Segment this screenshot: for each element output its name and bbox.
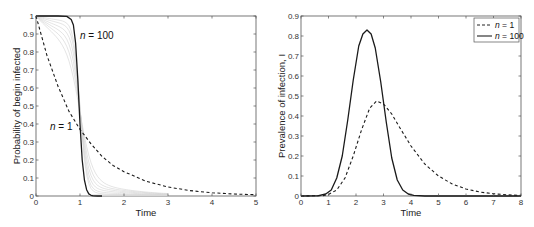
right-chart-panel: 012345678 00.10.20.30.40.50.60.70.80.9 T… xyxy=(276,12,524,218)
annotation-n-100: n = 100 xyxy=(80,30,114,41)
right-x-tick-label: 0 xyxy=(299,198,304,207)
left-intermediate-curve xyxy=(36,16,168,196)
left-plot-frame xyxy=(36,16,256,196)
legend-entry-n-1-rest: = 1 xyxy=(500,20,515,30)
left-x-axis-label: Time xyxy=(136,207,157,218)
right-x-ticks: 012345678 xyxy=(299,16,524,207)
left-series-n-100-solid-line xyxy=(36,16,102,196)
left-x-tick-label: 1 xyxy=(78,198,83,207)
right-y-tick-label: 0.6 xyxy=(288,72,300,81)
right-x-tick-label: 3 xyxy=(381,198,386,207)
right-y-tick-label: 0.1 xyxy=(288,172,300,181)
right-x-axis-label: Time xyxy=(401,207,422,218)
left-intermediate-curve xyxy=(36,16,168,195)
left-series-n-1-dashed-line xyxy=(36,16,256,195)
right-series-n-1-dashed-line xyxy=(301,101,521,196)
legend-entry-n-100: n = 100 xyxy=(495,31,524,41)
left-x-tick-label: 5 xyxy=(254,198,259,207)
left-y-tick-label: 0.5 xyxy=(23,102,35,111)
left-chart-panel: 012345 00.10.20.30.40.50.60.70.80.91 Tim… xyxy=(11,12,259,218)
right-x-tick-label: 4 xyxy=(409,198,414,207)
right-x-tick-label: 1 xyxy=(326,198,331,207)
left-x-tick-label: 4 xyxy=(210,198,215,207)
right-series-group xyxy=(301,30,521,196)
right-x-tick-label: 7 xyxy=(491,198,496,207)
legend-entry-n-100-rest: = 100 xyxy=(500,31,524,41)
right-y-tick-label: 0.5 xyxy=(288,92,300,101)
left-intermediate-curves xyxy=(36,16,168,196)
left-x-tick-label: 2 xyxy=(122,198,127,207)
left-y-axis-label: Probability of begin infected xyxy=(11,48,22,165)
left-intermediate-curve xyxy=(36,16,168,193)
left-y-tick-label: 0.8 xyxy=(23,48,35,57)
left-x-tick-label: 0 xyxy=(34,198,39,207)
right-y-tick-label: 0.7 xyxy=(288,52,300,61)
left-y-tick-label: 1 xyxy=(30,12,35,21)
right-y-axis-label: Prevalence of infection, I xyxy=(276,54,287,158)
right-x-tick-label: 2 xyxy=(354,198,359,207)
left-y-tick-label: 0.2 xyxy=(23,156,35,165)
annotation-n-1: n = 1 xyxy=(50,121,73,132)
right-x-tick-label: 6 xyxy=(464,198,469,207)
left-y-tick-label: 0.6 xyxy=(23,84,35,93)
right-y-tick-label: 0.2 xyxy=(288,152,300,161)
left-intermediate-curve xyxy=(36,16,168,194)
legend-entry-n-1: n = 1 xyxy=(495,20,514,30)
right-legend: n = 1 n = 100 xyxy=(474,18,524,42)
right-series-n-100-solid-line xyxy=(301,30,521,196)
left-y-ticks: 00.10.20.30.40.50.60.70.80.91 xyxy=(23,12,256,201)
left-series-group xyxy=(36,16,256,196)
annotation-n-1-rest: = 1 xyxy=(56,121,73,132)
figure: 012345 00.10.20.30.40.50.60.70.80.91 Tim… xyxy=(0,0,534,227)
right-y-tick-label: 0.4 xyxy=(288,112,300,121)
left-y-tick-label: 0.9 xyxy=(23,30,35,39)
annotation-n-100-rest: = 100 xyxy=(86,30,115,41)
right-y-tick-label: 0.3 xyxy=(288,132,300,141)
left-y-tick-label: 0.1 xyxy=(23,174,35,183)
left-intermediate-curve xyxy=(36,16,168,195)
left-y-tick-label: 0 xyxy=(30,192,35,201)
right-x-tick-label: 5 xyxy=(436,198,441,207)
right-y-tick-label: 0 xyxy=(295,192,300,201)
left-x-ticks: 012345 xyxy=(34,16,259,207)
left-x-tick-label: 3 xyxy=(166,198,171,207)
right-x-tick-label: 8 xyxy=(519,198,524,207)
left-intermediate-curve xyxy=(36,16,168,194)
left-y-tick-label: 0.4 xyxy=(23,120,35,129)
right-y-tick-label: 0.8 xyxy=(288,32,300,41)
left-y-tick-label: 0.7 xyxy=(23,66,35,75)
right-plot-frame xyxy=(301,16,521,196)
left-y-tick-label: 0.3 xyxy=(23,138,35,147)
right-y-tick-label: 0.9 xyxy=(288,12,300,21)
